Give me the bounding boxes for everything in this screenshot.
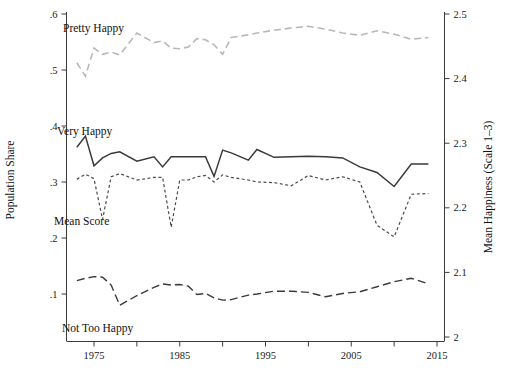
tick-label: 2.1 bbox=[454, 267, 467, 278]
left-tick: .5 bbox=[50, 65, 67, 76]
tick-label: 1995 bbox=[255, 350, 276, 361]
x-tick: 1985 bbox=[169, 342, 190, 361]
left-tick: .1 bbox=[50, 289, 67, 300]
bottom-axis: 19751985199520052015 bbox=[67, 342, 448, 361]
x-tick: 1975 bbox=[84, 342, 105, 361]
series-line-very-happy bbox=[77, 136, 429, 186]
series-label-very-happy: Very Happy bbox=[57, 125, 112, 138]
data-series-group bbox=[77, 26, 429, 305]
right-axis-ticks: 22.12.22.32.42.5 bbox=[445, 9, 468, 343]
tick-label: 1975 bbox=[84, 350, 105, 361]
left-tick: .6 bbox=[50, 9, 67, 20]
y-axis-title: Population Share bbox=[4, 141, 17, 220]
right-tick: 2.4 bbox=[445, 73, 468, 84]
tick-label: 2.5 bbox=[454, 9, 467, 20]
tick-label: .1 bbox=[50, 289, 58, 300]
chart-canvas: .1.2.3.4.5.6 22.12.22.32.42.5 1975198519… bbox=[0, 0, 509, 375]
tick-label: .5 bbox=[50, 65, 58, 76]
tick-label: .3 bbox=[50, 177, 58, 188]
left-tick: .3 bbox=[50, 177, 67, 188]
y2-axis-title: Mean Happiness (Scale 1–3) bbox=[482, 121, 495, 254]
tick-label: 2 bbox=[454, 332, 459, 343]
series-line-not-too-happy bbox=[77, 277, 429, 306]
series-label-mean-score: Mean Score bbox=[54, 215, 109, 227]
tick-label: .2 bbox=[50, 233, 58, 244]
right-tick: 2.2 bbox=[445, 202, 467, 213]
x-tick: 1995 bbox=[255, 342, 276, 361]
tick-label: 1985 bbox=[169, 350, 190, 361]
tick-label: 2.2 bbox=[454, 202, 467, 213]
tick-label: 2005 bbox=[341, 350, 362, 361]
x-tick: 2005 bbox=[341, 342, 362, 361]
series-label-pretty-happy: Pretty Happy bbox=[63, 22, 124, 35]
x-axis-ticks: 19751985199520052015 bbox=[84, 342, 448, 361]
right-tick: 2.5 bbox=[445, 9, 467, 20]
tick-label: .6 bbox=[50, 9, 58, 20]
happiness-trend-chart: .1.2.3.4.5.6 22.12.22.32.42.5 1975198519… bbox=[0, 0, 509, 375]
tick-label: 2.3 bbox=[454, 138, 467, 149]
right-axis: 22.12.22.32.42.5 bbox=[445, 9, 468, 343]
right-tick: 2.3 bbox=[445, 138, 467, 149]
left-tick: .2 bbox=[50, 233, 67, 244]
series-label-not-too-happy: Not Too Happy bbox=[62, 322, 133, 335]
tick-label: 2.4 bbox=[454, 73, 468, 84]
series-line-pretty-happy bbox=[77, 26, 429, 76]
tick-label: 2015 bbox=[427, 350, 448, 361]
left-axis-ticks: .1.2.3.4.5.6 bbox=[50, 9, 67, 300]
series-line-mean-score bbox=[77, 174, 429, 237]
left-axis: .1.2.3.4.5.6 bbox=[50, 9, 67, 342]
right-tick: 2.1 bbox=[445, 267, 467, 278]
right-tick: 2 bbox=[445, 332, 459, 343]
x-tick: 2015 bbox=[427, 342, 448, 361]
